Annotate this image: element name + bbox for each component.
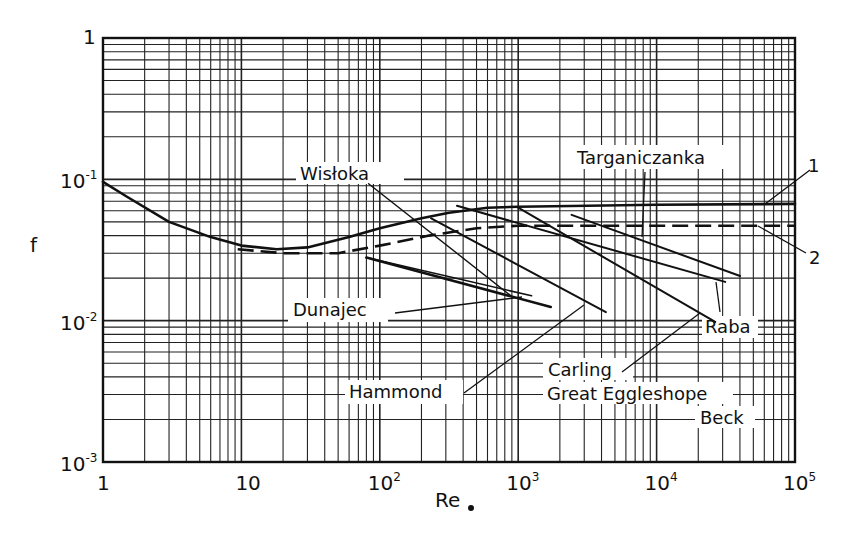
annotation-label: 2 [809, 247, 820, 268]
annotation-label: Raba [705, 316, 751, 337]
annotation-label: Beck [700, 407, 744, 428]
annotation-label: 1 [808, 155, 819, 176]
leader-line [716, 282, 720, 312]
x-tick-label: 10 [235, 471, 260, 495]
annotation-label: Targaniczanka [576, 147, 705, 168]
annotation-label: Dunajec [293, 299, 367, 320]
annotation-label: Great Eggleshope [547, 383, 707, 404]
x-tick-label: 104 [645, 470, 678, 495]
x-axis-label-main: Re [435, 488, 460, 512]
leader-line [395, 297, 522, 313]
x-tick-label: 103 [506, 470, 539, 495]
y-tick-label: 10-1 [60, 168, 97, 193]
y-axis-ticks: 110-110-210-3 [60, 25, 97, 476]
series-line-2 [238, 226, 795, 254]
x-axis-label: Re [435, 488, 460, 512]
series-line-wis-oka [369, 184, 512, 296]
series-line-dunajec-b- [366, 258, 531, 296]
x-tick-label: 102 [368, 470, 401, 495]
series-line-1 [103, 182, 795, 250]
annotation-label: Wisłoka [300, 163, 369, 184]
annotations: WisłokaTarganiczankaDunajecHammondRabaCa… [293, 147, 820, 428]
data-series [103, 182, 795, 322]
leader-line [765, 170, 810, 204]
y-axis-label: f [30, 233, 38, 257]
y-tick-label: 1 [83, 25, 96, 49]
y-tick-label: 10-2 [60, 310, 97, 335]
friction-factor-chart: 110102103104105 110-110-210-3 WisłokaTar… [0, 0, 853, 537]
y-tick-label: 10-3 [60, 451, 97, 476]
series-line-dunajec-a- [366, 258, 550, 308]
x-tick-label: 1 [97, 471, 110, 495]
annotation-label: Hammond [349, 381, 442, 402]
annotation-label: Carling [548, 359, 612, 380]
x-tick-label: 105 [783, 470, 816, 495]
x-axis-label-subscript-star [468, 505, 474, 511]
